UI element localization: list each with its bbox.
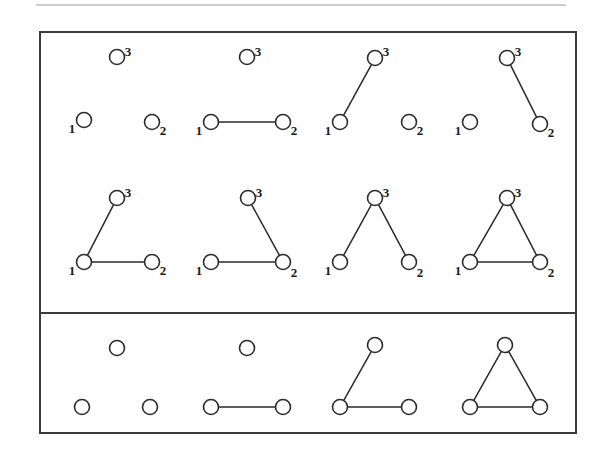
node-label-3: 3	[515, 44, 522, 59]
node-label-1: 1	[196, 123, 203, 138]
graph-node	[500, 51, 515, 66]
graph-labeled-g3: 123	[325, 44, 424, 138]
graph-labeled-g7: 123	[325, 185, 424, 280]
graph-node	[533, 400, 548, 415]
graph-node	[110, 50, 125, 65]
graph-node	[333, 115, 348, 130]
node-label-2: 2	[291, 265, 298, 280]
graph-edge	[379, 205, 405, 255]
graph-node	[333, 400, 348, 415]
outer-figure-box	[40, 32, 576, 433]
node-label-3: 3	[383, 44, 390, 59]
node-label-1: 1	[196, 263, 203, 278]
graph-node	[463, 400, 478, 415]
graph-node	[402, 115, 417, 130]
graph-node	[498, 338, 513, 353]
graph-node	[240, 341, 255, 356]
graph-labeled-g5: 123	[69, 185, 167, 278]
node-label-2: 2	[548, 125, 555, 140]
graph-node	[368, 191, 383, 206]
graph-edge	[344, 65, 371, 115]
node-label-3: 3	[125, 185, 132, 200]
graph-node	[204, 255, 219, 270]
graph-labeled-g2: 123	[196, 44, 298, 138]
graph-node	[533, 117, 548, 132]
graph-node	[204, 400, 219, 415]
node-label-2: 2	[417, 265, 424, 280]
node-label-1: 1	[69, 263, 76, 278]
node-label-3: 3	[383, 185, 390, 200]
graph-node	[368, 51, 383, 66]
unlabeled-graphs-panel	[75, 338, 548, 415]
graph-node	[500, 191, 515, 206]
node-label-1: 1	[325, 263, 332, 278]
graph-edge	[344, 352, 371, 400]
graph-node	[276, 255, 291, 270]
graph-node	[276, 115, 291, 130]
graph-edge	[474, 352, 501, 400]
graph-node	[145, 115, 160, 130]
node-label-2: 2	[291, 123, 298, 138]
graph-node	[402, 255, 417, 270]
graph-unlabeled-g2	[204, 341, 291, 415]
graph-node	[402, 400, 417, 415]
node-label-2: 2	[417, 123, 424, 138]
graph-labeled-g4: 123	[455, 44, 555, 140]
graph-edge	[344, 205, 371, 255]
graph-node	[533, 255, 548, 270]
figure-frame	[40, 32, 576, 433]
graph-unlabeled-g4	[463, 338, 548, 415]
labeled-graphs-panel: 123123123123123123123123	[69, 44, 555, 280]
graph-node	[204, 115, 219, 130]
graph-node	[463, 255, 478, 270]
graph-node	[145, 255, 160, 270]
node-label-2: 2	[160, 263, 167, 278]
graph-labeled-g8: 123	[455, 185, 555, 280]
node-label-3: 3	[256, 185, 263, 200]
graph-node	[368, 338, 383, 353]
node-label-3: 3	[255, 44, 262, 59]
graph-unlabeled-g3	[333, 338, 417, 415]
graph-node	[240, 50, 255, 65]
graph-node	[463, 115, 478, 130]
node-label-2: 2	[160, 123, 167, 138]
graph-node	[276, 400, 291, 415]
node-label-1: 1	[455, 263, 462, 278]
graph-unlabeled-g1	[75, 341, 158, 415]
figure-root: 123123123123123123123123	[0, 0, 602, 452]
graph-edge	[511, 205, 537, 255]
node-label-1: 1	[325, 123, 332, 138]
graph-edge	[474, 205, 503, 255]
graph-edge	[252, 205, 279, 255]
graph-edge	[88, 205, 114, 255]
graph-edge	[509, 352, 536, 400]
graph-node	[143, 400, 158, 415]
node-label-2: 2	[548, 265, 555, 280]
node-label-3: 3	[515, 185, 522, 200]
node-label-1: 1	[455, 123, 462, 138]
graph-node	[77, 255, 92, 270]
graph-edge	[511, 65, 537, 117]
node-label-3: 3	[125, 44, 132, 59]
graph-node	[110, 191, 125, 206]
graph-node	[333, 255, 348, 270]
graph-figure-canvas: 123123123123123123123123	[0, 0, 602, 452]
graph-node	[77, 113, 92, 128]
graph-node	[75, 400, 90, 415]
graph-node	[241, 191, 256, 206]
graph-labeled-g6: 123	[196, 185, 298, 280]
graph-labeled-g1: 123	[69, 44, 167, 138]
graph-node	[110, 341, 125, 356]
node-label-1: 1	[69, 121, 76, 136]
